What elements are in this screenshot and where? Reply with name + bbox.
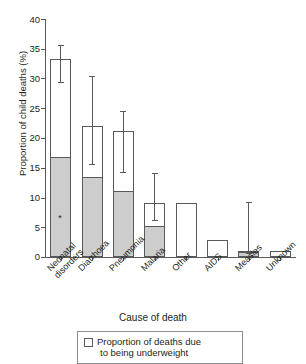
y-tick-label-0: 0 [18, 252, 40, 262]
error-bar-cap-high [246, 202, 252, 203]
legend-label-line1: Proportion of deaths due [97, 336, 201, 347]
significance-marker: * [58, 214, 62, 223]
error-bar-line [60, 46, 61, 83]
error-bar-line [154, 174, 155, 222]
chart-container: Proportion of child deaths (%) 40 35 30 … [0, 0, 306, 364]
y-tick-label-30: 30 [18, 74, 40, 84]
error-bar-cap-low [120, 172, 126, 173]
legend-label: Proportion of deaths due to being underw… [97, 336, 201, 358]
y-tick-label-40: 40 [18, 15, 40, 25]
error-bar-line [92, 77, 93, 164]
y-tick-label-5: 5 [18, 223, 40, 233]
bar-neonatal-disorders [50, 59, 71, 257]
y-tick-label-15: 15 [18, 163, 40, 173]
open-square-icon [84, 338, 93, 347]
plot-area: * [45, 19, 296, 257]
y-tick-label-25: 25 [18, 104, 40, 114]
legend-item-underweight: Proportion of deaths due to being underw… [84, 336, 236, 358]
bar-other [176, 203, 197, 257]
error-bar-cap-high [89, 76, 95, 77]
legend-label-line2: to being underweight [97, 347, 201, 358]
y-tick-label-10: 10 [18, 193, 40, 203]
error-bar-line [123, 112, 124, 172]
error-bar-line [248, 203, 249, 254]
error-bar-cap-high [152, 173, 158, 174]
error-bar-cap-low [58, 82, 64, 83]
x-axis-title: Cause of death [0, 312, 306, 323]
y-tick-label-35: 35 [18, 44, 40, 54]
error-bar-cap-low [152, 220, 158, 221]
error-bar-cap-high [58, 45, 64, 46]
bar-underweight-portion [51, 157, 70, 256]
error-bar-cap-low [89, 164, 95, 165]
y-tick-label-20: 20 [18, 133, 40, 143]
legend: Proportion of deaths due to being underw… [77, 331, 243, 364]
error-bar-cap-high [120, 111, 126, 112]
y-axis-ticks: 40 35 30 25 20 15 10 5 0 [18, 0, 40, 264]
